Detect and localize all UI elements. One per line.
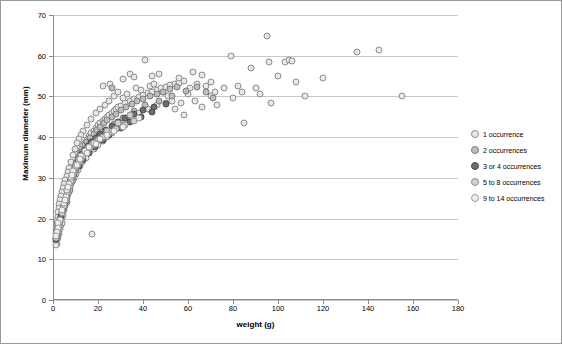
y-gridline bbox=[53, 15, 458, 16]
data-point bbox=[376, 46, 383, 53]
data-point bbox=[155, 71, 162, 78]
data-point bbox=[239, 89, 246, 96]
x-tick-label: 80 bbox=[229, 304, 237, 313]
data-point bbox=[162, 100, 169, 107]
data-point bbox=[194, 83, 201, 90]
data-point bbox=[131, 73, 138, 80]
data-point bbox=[203, 89, 210, 96]
data-point bbox=[268, 99, 275, 106]
legend-label: 5 to 8 occurrences bbox=[483, 179, 541, 186]
data-point bbox=[221, 85, 228, 92]
data-point bbox=[182, 87, 189, 94]
data-point bbox=[189, 69, 196, 76]
data-point bbox=[275, 73, 282, 80]
data-point bbox=[320, 75, 327, 82]
y-tick-label: 20 bbox=[38, 214, 46, 223]
x-axis-line bbox=[53, 299, 458, 300]
legend-label: 3 or 4 occurrences bbox=[483, 163, 541, 170]
legend-marker-icon bbox=[471, 130, 479, 138]
data-point bbox=[119, 123, 126, 130]
legend-item: 1 occurrence bbox=[471, 126, 557, 142]
x-tick-label: 160 bbox=[407, 304, 420, 313]
legend-marker-icon bbox=[471, 146, 479, 154]
chart-legend: 1 occurrence2 occurrences3 or 4 occurren… bbox=[471, 126, 557, 206]
data-point bbox=[99, 83, 106, 90]
data-point bbox=[171, 105, 178, 112]
legend-label: 1 occurrence bbox=[483, 131, 523, 138]
data-point bbox=[198, 103, 205, 110]
data-point bbox=[263, 33, 270, 40]
x-tick-label: 100 bbox=[272, 304, 285, 313]
data-point bbox=[119, 75, 126, 82]
chart-page: 010203040506070020406080100120140160180 … bbox=[0, 0, 562, 344]
y-axis-line bbox=[53, 15, 54, 300]
y-tick-label: 50 bbox=[38, 92, 46, 101]
x-axis-title: weight (g) bbox=[53, 320, 458, 329]
legend-marker-icon bbox=[471, 194, 479, 202]
y-tick-label: 10 bbox=[38, 255, 46, 264]
data-point bbox=[176, 75, 183, 82]
y-tick-label: 30 bbox=[38, 173, 46, 182]
data-point bbox=[198, 71, 205, 78]
data-point bbox=[214, 101, 221, 108]
y-tick-label: 70 bbox=[38, 11, 46, 20]
data-point bbox=[288, 57, 295, 64]
x-tick-label: 40 bbox=[139, 304, 147, 313]
data-point bbox=[89, 231, 96, 238]
data-point bbox=[398, 93, 405, 100]
data-point bbox=[257, 91, 264, 98]
data-point bbox=[124, 91, 131, 98]
data-point bbox=[173, 83, 180, 90]
y-gridline bbox=[53, 137, 458, 138]
legend-item: 9 to 14 occurrences bbox=[471, 190, 557, 206]
y-tick-label: 40 bbox=[38, 133, 46, 142]
scatter-plot-area: 010203040506070020406080100120140160180 bbox=[53, 15, 458, 300]
data-point bbox=[169, 92, 176, 99]
data-point bbox=[227, 52, 234, 59]
data-point bbox=[230, 95, 237, 102]
data-point bbox=[92, 141, 99, 148]
data-point bbox=[106, 97, 113, 104]
data-point bbox=[110, 127, 117, 134]
data-point bbox=[104, 131, 111, 138]
legend-item: 2 occurrences bbox=[471, 142, 557, 158]
y-gridline bbox=[53, 300, 458, 301]
x-tick-label: 60 bbox=[184, 304, 192, 313]
data-point bbox=[180, 111, 187, 118]
y-gridline bbox=[53, 56, 458, 57]
y-gridline bbox=[53, 219, 458, 220]
legend-marker-icon bbox=[471, 162, 479, 170]
data-point bbox=[108, 85, 115, 92]
data-point bbox=[241, 119, 248, 126]
data-point bbox=[126, 112, 133, 119]
y-axis-title: Maximum diameter (mm) bbox=[21, 34, 30, 234]
data-point bbox=[65, 183, 72, 190]
data-point bbox=[83, 149, 90, 156]
data-point bbox=[53, 232, 60, 239]
data-point bbox=[178, 99, 185, 106]
data-point bbox=[77, 156, 84, 163]
legend-item: 3 or 4 occurrences bbox=[471, 158, 557, 174]
data-point bbox=[69, 171, 76, 178]
y-tick-label: 0 bbox=[42, 296, 46, 305]
data-point bbox=[266, 58, 273, 65]
legend-label: 9 to 14 occurrences bbox=[483, 195, 544, 202]
y-gridline bbox=[53, 178, 458, 179]
x-tick-label: 20 bbox=[94, 304, 102, 313]
data-point bbox=[248, 64, 255, 71]
x-tick-label: 0 bbox=[51, 304, 55, 313]
data-point bbox=[353, 48, 360, 55]
x-tick-label: 180 bbox=[452, 304, 465, 313]
data-point bbox=[61, 196, 68, 203]
data-point bbox=[293, 79, 300, 86]
data-point bbox=[142, 56, 149, 63]
legend-marker-icon bbox=[471, 178, 479, 186]
x-tick-label: 120 bbox=[317, 304, 330, 313]
y-tick-label: 60 bbox=[38, 51, 46, 60]
data-point bbox=[135, 115, 142, 122]
data-point bbox=[302, 93, 309, 100]
y-gridline bbox=[53, 259, 458, 260]
plot-frame: 010203040506070020406080100120140160180 bbox=[53, 15, 458, 300]
data-point bbox=[191, 97, 198, 104]
data-point bbox=[149, 108, 156, 115]
